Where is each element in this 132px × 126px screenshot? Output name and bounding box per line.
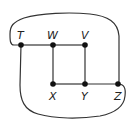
node-z bbox=[115, 81, 121, 87]
edge-t-z-bottom-arc bbox=[20, 45, 125, 118]
edge-t-z-top-arc bbox=[10, 13, 119, 84]
label-x: X bbox=[48, 90, 57, 103]
label-t: T bbox=[17, 29, 25, 42]
label-v: V bbox=[81, 29, 90, 42]
label-w: W bbox=[47, 29, 59, 42]
graph-diagram: T W V X Y Z bbox=[0, 0, 132, 126]
node-w bbox=[50, 42, 56, 48]
node-t bbox=[18, 42, 24, 48]
node-y bbox=[82, 81, 88, 87]
node-v bbox=[82, 42, 88, 48]
node-x bbox=[50, 81, 56, 87]
label-y: Y bbox=[81, 90, 89, 103]
label-z: Z bbox=[113, 90, 122, 103]
